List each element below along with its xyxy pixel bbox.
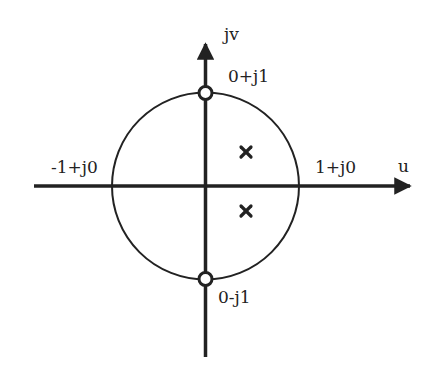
label-right-point: 1+j0	[315, 157, 356, 177]
pole-marker-upper	[241, 147, 251, 157]
pole-marker-lower	[241, 206, 251, 216]
label-left-point: -1+j0	[51, 157, 98, 177]
zero-marker-top	[199, 87, 212, 100]
label-bottom-point: 0-j1	[218, 287, 251, 307]
zero-marker-bottom	[199, 273, 212, 286]
label-top-point: 0+j1	[228, 66, 269, 86]
real-axis-label: u	[398, 156, 409, 176]
imaginary-axis-label: jv	[222, 24, 239, 44]
pole-zero-diagram: jv u 0+j1 0-j1 -1+j0 1+j0	[0, 0, 437, 374]
